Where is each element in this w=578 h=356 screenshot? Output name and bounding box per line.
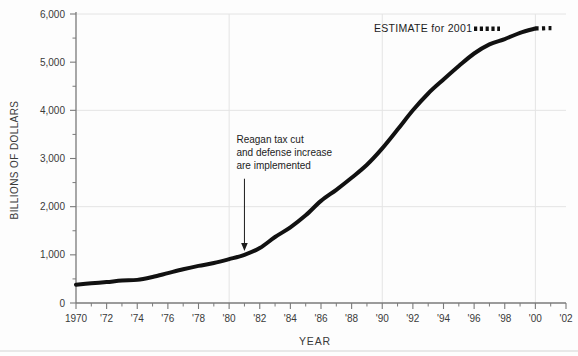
annotation-line: Reagan tax cut	[236, 134, 303, 145]
x-tick-label: '98	[498, 313, 511, 324]
y-tick-label: 1,000	[40, 249, 65, 260]
x-axis-title: YEAR	[299, 335, 331, 347]
y-tick-label: 0	[59, 298, 65, 309]
legend-label: ESTIMATE for 2001	[374, 22, 472, 34]
annotation-line: are implemented	[236, 160, 310, 171]
x-tick-label: '80	[223, 313, 236, 324]
y-tick-label: 5,000	[40, 57, 65, 68]
x-tick-label: '96	[468, 313, 481, 324]
x-tick-label: '92	[406, 313, 419, 324]
x-tick-label: '90	[376, 313, 389, 324]
x-tick-label: '88	[345, 313, 358, 324]
x-tick-label: '72	[100, 313, 113, 324]
x-tick-label: '84	[284, 313, 297, 324]
x-tick-label: '86	[314, 313, 327, 324]
x-tick-label: '74	[131, 313, 144, 324]
x-tick-label: '02	[559, 313, 572, 324]
x-tick-label: '78	[192, 313, 205, 324]
y-axis-title: BILLIONS OF DOLLARS	[9, 101, 20, 220]
x-tick-label: '82	[253, 313, 266, 324]
x-tick-label: '94	[437, 313, 450, 324]
y-tick-label: 4,000	[40, 105, 65, 116]
y-tick-label: 3,000	[40, 153, 65, 164]
chart-figure: 1970'72'74'76'78'80'82'84'86'88'90'92'94…	[0, 0, 578, 356]
x-tick-label: '00	[529, 313, 542, 324]
y-tick-label: 2,000	[40, 201, 65, 212]
x-tick-label: '76	[161, 313, 174, 324]
chart-canvas: 1970'72'74'76'78'80'82'84'86'88'90'92'94…	[0, 0, 578, 356]
y-tick-label: 6,000	[40, 9, 65, 20]
annotation-line: and defense increase	[236, 147, 332, 158]
x-tick-label: 1970	[65, 313, 88, 324]
